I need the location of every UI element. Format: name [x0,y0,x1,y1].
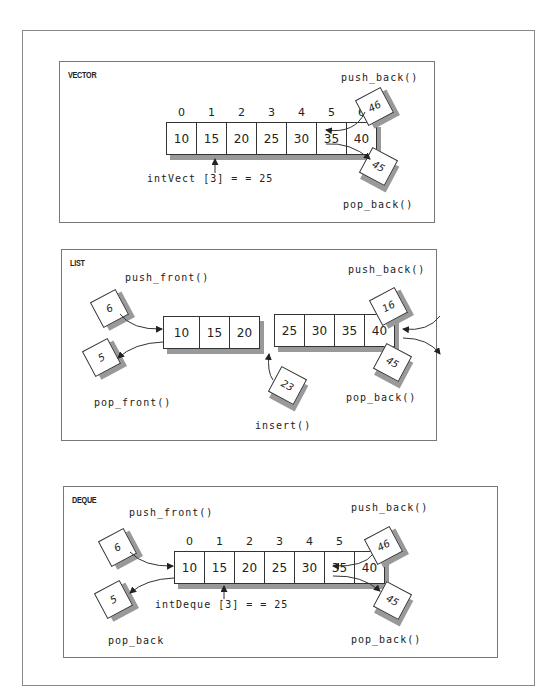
index-label: 5 [316,106,347,119]
list-node: 25 [274,314,305,347]
deque-title: DEQUE [72,495,96,505]
deque-access-label: intDeque [3] = = 25 [155,599,288,610]
list-insert-label: insert() [255,420,311,431]
list-push-back-label: push_back() [348,264,425,275]
array-cell: 10 [174,551,205,584]
index-label: 4 [286,106,317,119]
array-cell: 10 [166,122,197,155]
deque-pop-back-label: pop_back() [351,634,421,645]
index-label: 0 [174,535,205,548]
list-insert-tile: 23 [268,366,307,405]
deque-pop-back-tile: 45 [373,581,412,620]
index-label: 5 [324,535,355,548]
list-title: LIST [70,258,85,268]
vector-panel: VECTOR 0 1 2 3 4 5 6 10 15 20 25 30 35 4… [59,61,435,223]
list-pop-front-tile: 5 [82,338,121,377]
array-cell: 30 [294,551,325,584]
deque-push-front-label: push_front() [129,507,213,518]
deque-push-back-label: push_back() [351,502,428,513]
vector-pop-back-label: pop_back() [343,199,413,210]
array-cell: 20 [234,551,265,584]
index-label: 4 [294,535,325,548]
array-cell: 25 [264,551,295,584]
index-label: 0 [166,106,197,119]
deque-pop-front-label: pop_back [108,635,164,646]
index-label: 1 [196,106,227,119]
vector-indices: 0 1 2 3 4 5 6 [166,106,377,119]
vector-push-back-tile: 46 [355,87,394,126]
index-label: 1 [204,535,235,548]
list-right-segment: 25 30 35 40 [274,314,395,347]
deque-array: 10 15 20 25 30 35 40 [174,551,385,584]
list-node: 20 [229,316,260,349]
index-label: 2 [234,535,265,548]
list-node: 30 [304,314,335,347]
list-pop-front-label: pop_front() [94,397,171,408]
deque-indices: 0 1 2 3 4 5 6 [174,535,385,548]
vector-title: VECTOR [68,70,96,80]
vector-push-back-label: push_back() [341,72,418,83]
list-pop-back-label: pop_back() [346,392,416,403]
array-cell: 20 [226,122,257,155]
list-node: 35 [334,314,365,347]
index-label: 3 [264,535,295,548]
list-push-front-tile: 6 [90,289,129,328]
list-node: 10 [163,316,200,349]
array-cell: 15 [196,122,227,155]
array-cell: 35 [324,551,355,584]
index-label: 2 [226,106,257,119]
list-pop-back-tile: 45 [373,343,412,382]
vector-array: 10 15 20 25 30 35 40 [166,122,377,155]
list-push-front-label: push_front() [125,272,209,283]
list-left-segment: 10 15 20 [163,316,260,349]
array-cell: 15 [204,551,235,584]
vector-access-label: intVect [3] = = 25 [147,173,273,184]
deque-push-front-tile: 6 [98,528,137,567]
list-node: 15 [199,316,230,349]
array-cell: 30 [286,122,317,155]
index-label: 3 [256,106,287,119]
list-panel: LIST push_front() 6 5 pop_front() 10 15 … [61,249,437,441]
deque-panel: DEQUE push_front() 6 5 pop_back 0 1 2 3 … [63,486,498,658]
deque-pop-front-tile: 5 [94,580,133,619]
array-cell: 25 [256,122,287,155]
array-cell: 35 [316,122,347,155]
